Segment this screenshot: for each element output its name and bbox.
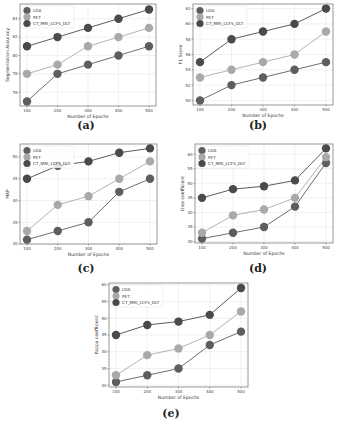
x-tick-label: 300 [260,245,268,250]
data-point [23,235,31,243]
data-point [54,227,62,235]
data-point [290,66,298,74]
chart-panel-b: 50525456586062100200300400500Number of E… [171,0,342,140]
y-tick-label: 35 [12,220,18,225]
legend-marker [23,147,30,154]
y-axis-label: Kappa coefficient [94,315,99,354]
legend-label: LDA [208,148,216,153]
chart-panel-c: 3035404550100200300400500Number of Epoch… [0,140,171,280]
subfigure-caption: (c) [66,262,106,275]
y-tick-label: 60 [187,152,193,157]
data-point [322,58,330,66]
y-tick-label: 30 [187,239,193,244]
data-point [115,188,123,196]
y-axis-label: Dice coefficient [180,176,185,211]
y-tick-label: 40 [101,349,107,354]
y-tick-label: 76 [12,90,18,95]
data-point [23,42,31,50]
x-tick-label: 200 [54,246,62,251]
x-tick-label: 100 [112,389,120,394]
x-tick-label: 400 [291,107,299,112]
legend-label: LDA [33,148,41,153]
data-point [84,42,92,50]
x-tick-label: 500 [322,107,330,112]
data-point [114,51,122,59]
x-tick-label: 100 [23,108,31,113]
data-point [53,60,61,68]
data-point [260,205,268,213]
data-point [227,35,235,43]
y-tick-label: 50 [12,154,18,159]
data-point [322,27,330,35]
legend: LDAPETCT_MRI_LCFS_DLT [197,146,249,168]
y-tick-label: 40 [12,198,18,203]
x-tick-label: 400 [291,245,299,250]
legend-label: PET [122,294,130,299]
y-tick-label: 30 [12,241,18,246]
x-tick-label: 500 [322,245,330,250]
data-point [198,194,206,202]
legend-label: LDA [122,287,130,292]
chart-panel-d: 30354045505560100200300400500Number of E… [171,140,342,280]
data-point [259,27,267,35]
legend-marker [23,20,30,27]
y-tick-label: 78 [12,71,18,76]
data-point [146,175,154,183]
legend-label: CT_MRI_LCFS_DLT [33,161,71,166]
data-point [174,317,182,325]
subfigure-caption: (a) [66,119,106,132]
legend: LDAPETCT_MRI_LCFS_DLT [111,285,163,307]
data-point [206,311,214,319]
legend-label: CT_MRI_LCFS_DLT [33,21,71,26]
data-point [259,58,267,66]
y-tick-label: 54 [185,67,191,72]
y-tick-label: 35 [187,224,193,229]
x-tick-label: 300 [175,389,183,394]
legend-marker [196,20,203,27]
chart-panel-a: 7678808284100200300400500Number of Epoch… [0,0,171,140]
y-tick-label: 50 [101,316,107,321]
data-point [260,182,268,190]
data-point [143,321,151,329]
legend-marker [112,292,119,299]
data-point [290,20,298,28]
data-point [112,371,120,379]
data-point [322,144,330,152]
data-point [23,227,31,235]
data-point [54,201,62,209]
y-tick-label: 60 [101,282,107,287]
data-point [84,192,92,200]
data-point [237,284,245,292]
data-point [229,229,237,237]
y-tick-label: 55 [101,299,107,304]
data-point [206,331,214,339]
data-point [23,97,31,105]
data-point [146,144,154,152]
y-tick-label: 52 [185,83,191,88]
y-tick-label: 30 [101,383,107,388]
x-tick-label: 200 [228,107,236,112]
data-point [145,24,153,32]
data-point [227,81,235,89]
data-point [291,194,299,202]
x-axis-label: Number of Epochs [68,252,110,257]
x-tick-label: 300 [85,246,93,251]
legend-label: PET [33,15,41,20]
y-tick-label: 55 [187,166,193,171]
data-point [259,73,267,81]
y-tick-label: 58 [185,37,191,42]
data-point [227,66,235,74]
y-tick-label: 50 [187,181,193,186]
legend-marker [23,153,30,160]
data-point [114,33,122,41]
y-tick-label: 45 [187,195,193,200]
legend-marker [112,286,119,293]
data-point [84,24,92,32]
x-tick-label: 100 [196,107,204,112]
data-point [84,157,92,165]
x-tick-label: 500 [146,246,154,251]
data-point [198,229,206,237]
y-tick-label: 84 [12,16,18,21]
data-point [174,364,182,372]
data-point [196,96,204,104]
